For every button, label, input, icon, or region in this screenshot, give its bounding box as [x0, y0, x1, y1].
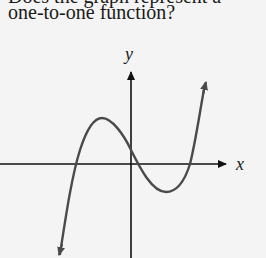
x-axis-label: x: [235, 154, 244, 174]
function-graph: x y: [0, 0, 266, 258]
cubic-curve: [60, 84, 205, 254]
y-axis-label: y: [123, 44, 133, 64]
